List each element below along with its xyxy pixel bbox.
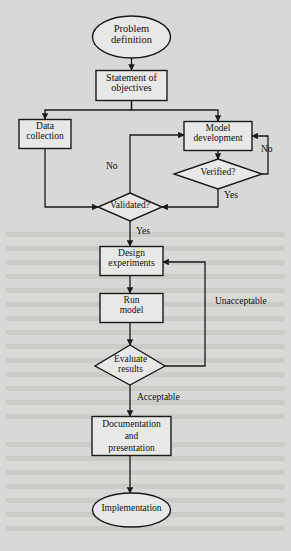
flowchart-page: Problem definition Statement of objectiv…	[0, 0, 291, 551]
node-design-experiments[interactable]	[100, 247, 163, 276]
node-statement-of-objectives[interactable]	[96, 71, 167, 101]
node-validated-decision[interactable]	[98, 193, 162, 221]
node-verified-decision[interactable]	[174, 159, 262, 189]
edge-statement-to-data	[45, 100, 132, 119]
node-problem-definition[interactable]	[93, 16, 171, 58]
node-documentation-and-presentation[interactable]	[92, 417, 171, 456]
node-data-collection[interactable]	[19, 120, 71, 149]
flowchart-canvas	[0, 0, 291, 551]
node-implementation[interactable]	[93, 493, 171, 527]
edge-verified-yes-to-validated	[162, 189, 218, 207]
edge-data-to-validated	[45, 148, 98, 207]
edge-verified-no-loop	[252, 136, 268, 174]
edge-statement-to-model	[132, 100, 219, 121]
nodes-group	[19, 16, 262, 527]
edge-validated-no-loop	[130, 135, 184, 193]
node-run-model[interactable]	[100, 294, 163, 323]
edge-evaluate-unacceptable-loop	[163, 262, 205, 366]
node-evaluate-results[interactable]	[95, 345, 165, 385]
node-model-development[interactable]	[184, 122, 252, 151]
